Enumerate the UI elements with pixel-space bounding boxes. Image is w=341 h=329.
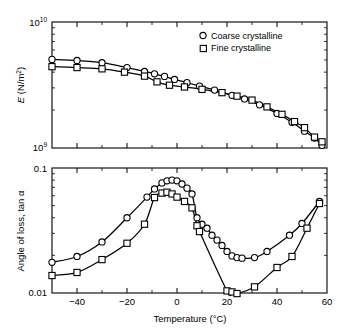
upper-ytick-label-top: 1010 [29,16,47,28]
data-point-coarse [214,237,220,243]
data-point-fine [189,205,195,211]
legend-label-coarse: Coarse crystalline [211,31,283,41]
data-point-fine [49,64,55,70]
data-point-fine [141,73,147,79]
data-point-coarse [49,56,55,62]
data-point-fine [99,66,105,72]
data-point-coarse [74,57,80,63]
data-point-fine [219,90,225,96]
data-point-coarse [256,102,262,108]
legend-label-fine: Fine crystalline [211,43,271,53]
data-point-coarse [209,232,215,238]
data-point-fine [301,125,307,131]
data-point-coarse [264,248,270,254]
data-point-coarse [189,191,195,197]
data-point-coarse [124,215,130,221]
data-point-fine [304,225,310,231]
data-point-fine [121,69,127,75]
data-point-fine [49,272,55,278]
upper-ytick-label-bottom: 109 [33,141,48,153]
lower-ytick-label-bottom: 0.01 [29,287,48,298]
data-point-fine [316,200,322,206]
data-point-fine [174,194,180,200]
data-point-fine [181,198,187,204]
upper-yaxis-title: E (N/m2) [15,67,27,103]
data-point-fine [234,93,240,99]
data-point-coarse [194,215,200,221]
data-point-fine [166,82,172,88]
legend-marker-square [200,45,206,51]
data-point-fine [291,119,297,125]
xtick-label: 40 [272,296,283,307]
data-point-fine [196,228,202,234]
lower-ytick-label-top: 0.1 [34,163,47,174]
data-point-fine [74,64,80,70]
data-point-fine [181,84,187,90]
data-point-coarse [219,242,225,248]
data-point-coarse [99,60,105,66]
upper-panel: 1010 109 E (N/m2) Coarse crystalline Fin… [15,16,328,153]
data-point-fine [151,194,157,200]
data-point-fine [141,221,147,227]
data-point-fine [99,257,105,263]
data-point-fine [124,240,130,246]
lower-panel: 0.1 0.01 Angle of loss, tan α −40−200204… [15,163,332,324]
data-point-coarse [161,73,167,79]
svg-text:Angle of loss, tan α: Angle of loss, tan α [15,190,26,272]
lower-xtick-labels: −40−200204060 [69,296,332,307]
data-point-fine [74,269,80,275]
data-point-fine [311,134,317,140]
xtick-label: −20 [119,296,135,307]
data-point-fine [289,253,295,259]
data-point-fine [234,290,240,296]
data-point-fine [251,284,257,290]
data-point-coarse [144,194,150,200]
xtick-label: −40 [69,296,85,307]
data-point-coarse [211,87,217,93]
data-point-fine [274,264,280,270]
legend-marker-circle [200,32,206,38]
data-point-coarse [239,255,245,261]
data-point-coarse [204,225,210,231]
data-point-coarse [74,253,80,259]
lower-yaxis-title: Angle of loss, tan α [15,190,26,272]
data-point-coarse [286,232,292,238]
xtick-label: 0 [174,296,179,307]
data-point-fine [264,104,270,110]
xtick-label: 60 [322,296,333,307]
data-point-coarse [251,254,257,260]
data-point-coarse [241,96,247,102]
data-point-fine [154,79,160,85]
data-point-coarse [151,186,157,192]
svg-text:E (N/m2): E (N/m2) [15,67,27,103]
data-point-coarse [49,259,55,265]
data-point-fine [249,97,255,103]
figure-root: 1010 109 E (N/m2) Coarse crystalline Fin… [0,0,341,329]
data-point-coarse [99,239,105,245]
xaxis-title: Temperature (°C) [154,313,227,324]
data-point-fine [319,139,325,145]
xtick-label: 20 [222,296,233,307]
data-point-fine [279,111,285,117]
data-point-fine [199,86,205,92]
data-point-coarse [184,185,190,191]
data-point-coarse [151,71,157,77]
